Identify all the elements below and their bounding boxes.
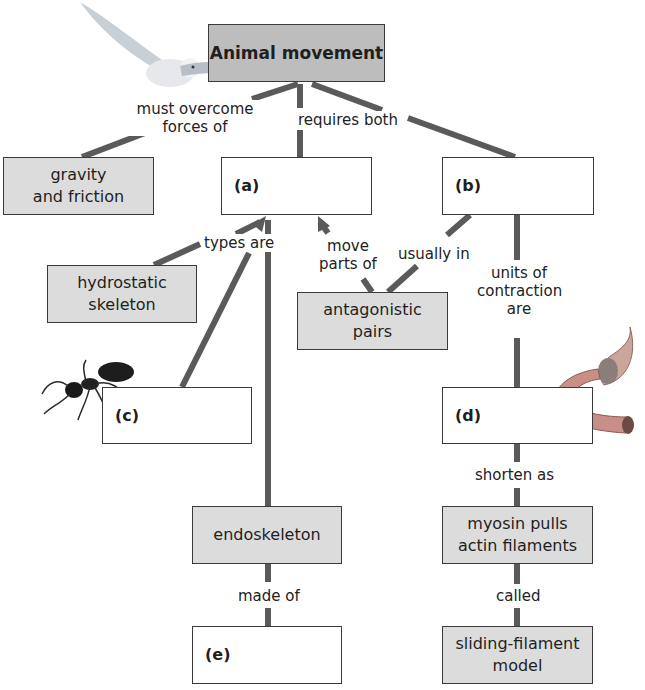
link-label-called: called — [494, 587, 543, 605]
node-c-tag: (c) — [115, 405, 139, 427]
node-blank-d[interactable]: (d) — [442, 387, 593, 444]
link-units-line2: contraction — [477, 282, 561, 300]
node-myosin-line1: myosin pulls — [467, 513, 567, 535]
concept-map: Animal movement gravity and friction (a)… — [0, 0, 645, 690]
link-label-types-are: types are — [202, 234, 276, 252]
link-units-line1: units of — [477, 264, 561, 282]
node-animal-movement-label: Animal movement — [210, 42, 384, 64]
node-blank-b[interactable]: (b) — [442, 157, 594, 215]
link-label-usually-in: usually in — [396, 245, 472, 263]
link-must-overcome-line1: must overcome — [130, 100, 260, 118]
node-gravity-friction: gravity and friction — [3, 157, 154, 215]
link-must-overcome-line2: forces of — [130, 118, 260, 136]
link-units-line3: are — [477, 300, 561, 318]
node-hydro-line2: skeleton — [88, 294, 155, 316]
node-hydrostatic-skeleton: hydrostatic skeleton — [47, 265, 197, 323]
node-sliding-filament-model: sliding-filament model — [442, 626, 593, 684]
node-d-tag: (d) — [455, 405, 481, 427]
node-antag-line1: antagonistic — [323, 299, 421, 321]
link-move-parts-line1: move — [318, 237, 378, 255]
node-antagonistic-pairs: antagonistic pairs — [297, 292, 448, 350]
node-blank-c[interactable]: (c) — [102, 387, 252, 444]
node-sliding-line2: model — [493, 655, 543, 677]
link-label-units-of-contraction: units of contraction are — [475, 264, 563, 318]
node-gravity-line1: gravity — [50, 164, 106, 186]
node-hydro-line1: hydrostatic — [77, 272, 167, 294]
node-animal-movement: Animal movement — [208, 24, 385, 82]
node-e-tag: (e) — [205, 644, 230, 666]
node-endoskeleton-label: endoskeleton — [213, 524, 320, 546]
link-label-shorten-as: shorten as — [473, 466, 556, 484]
node-myosin-actin: myosin pulls actin filaments — [442, 506, 593, 564]
node-blank-a[interactable]: (a) — [221, 157, 372, 215]
link-label-move-parts-of: move parts of — [316, 237, 380, 273]
link-label-made-of: made of — [236, 587, 302, 605]
link-move-parts-line2: parts of — [318, 255, 378, 273]
link-label-requires-both: requires both — [296, 111, 400, 129]
node-endoskeleton: endoskeleton — [192, 506, 342, 564]
node-b-tag: (b) — [455, 175, 481, 197]
node-sliding-line1: sliding-filament — [455, 633, 579, 655]
node-gravity-line2: and friction — [33, 186, 124, 208]
node-a-tag: (a) — [234, 175, 259, 197]
node-blank-e[interactable]: (e) — [192, 626, 342, 684]
node-antag-line2: pairs — [353, 321, 392, 343]
node-myosin-line2: actin filaments — [458, 535, 577, 557]
link-label-must-overcome: must overcome forces of — [128, 100, 262, 136]
